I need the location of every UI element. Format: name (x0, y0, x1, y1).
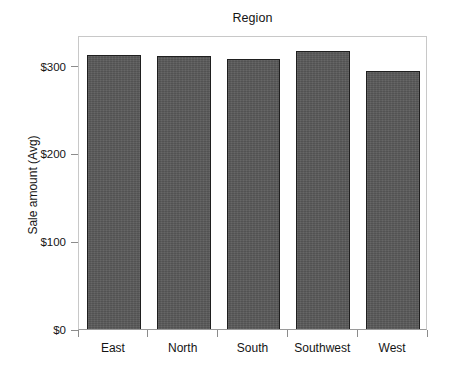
x-tick-label-east: East (78, 341, 148, 355)
x-tick-mark (427, 330, 428, 337)
x-tick-mark (147, 330, 148, 337)
chart-title: Region (78, 10, 427, 26)
x-tick-label-south: South (218, 341, 288, 355)
plot-area (78, 36, 427, 330)
y-tick-label: $200 (40, 148, 66, 160)
bar-southwest[interactable] (296, 51, 350, 329)
y-tick-mark (71, 154, 78, 155)
y-axis-title: Sale amount (Avg) (26, 105, 40, 265)
x-tick-mark (287, 330, 288, 337)
bar-south[interactable] (227, 59, 281, 329)
y-tick-label: $300 (40, 61, 66, 73)
x-tick-label-southwest: Southwest (287, 341, 357, 355)
x-tick-mark (217, 330, 218, 337)
y-tick-mark (71, 66, 78, 67)
x-tick-mark (78, 330, 79, 337)
x-tick-label-north: North (148, 341, 218, 355)
y-tick-label: $0 (53, 324, 66, 336)
y-tick-label: $100 (40, 236, 66, 248)
bar-east[interactable] (87, 55, 141, 329)
x-tick-label-west: West (357, 341, 427, 355)
bar-north[interactable] (157, 56, 211, 329)
y-tick-mark (71, 242, 78, 243)
x-tick-mark (357, 330, 358, 337)
bar-west[interactable] (366, 71, 420, 329)
bar-chart: Region Sale amount (Avg) $0$100$200$300 … (0, 0, 451, 375)
